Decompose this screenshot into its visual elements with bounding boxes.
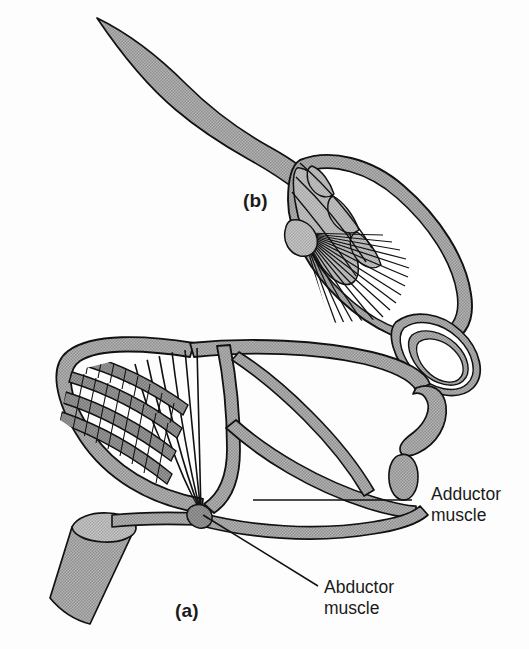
callout-adductor-line2: muscle — [431, 505, 501, 526]
callout-abductor-line2: muscle — [324, 598, 394, 619]
callout-adductor-line1: Adductor — [431, 484, 501, 504]
callout-adductor-muscle: Adductor muscle — [431, 484, 501, 525]
panel-label-a: (a) — [175, 600, 199, 622]
callout-abductor-muscle: Abductor muscle — [324, 577, 394, 618]
anatomical-figure — [0, 0, 529, 649]
callout-abductor-line1: Abductor — [324, 577, 394, 597]
figure-page: (b) (a) Adductor muscle Abductor muscle — [0, 0, 529, 649]
panel-label-b: (b) — [243, 190, 268, 212]
panel-a-adductor-bulb — [389, 454, 418, 500]
